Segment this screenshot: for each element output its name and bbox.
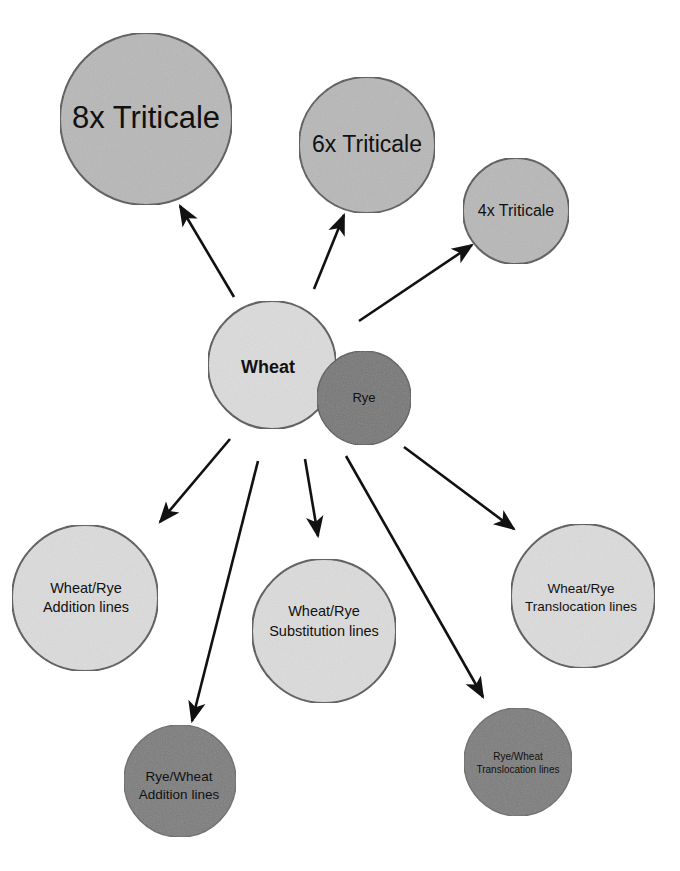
node-wr-translocation-line2: Translocation lines [525, 599, 637, 614]
arrow-to-wr-addition [160, 439, 230, 522]
node-rw-addition: Rye/Wheat Addition lines [124, 725, 236, 837]
wheat-label: Wheat [241, 357, 295, 377]
arrow-to-6x-triticale [314, 215, 344, 289]
arrow-to-4x-triticale [359, 245, 472, 321]
node-rw-translocation-line1: Rye/Wheat [493, 751, 543, 762]
node-wr-translocation-line1: Wheat/Rye [548, 581, 615, 596]
node-wr-substitution-line1: Wheat/Rye [288, 603, 360, 619]
arrow-to-8x-triticale [180, 206, 234, 297]
center-wheat-rye: Wheat Rye [208, 301, 411, 445]
node-wr-addition-line2: Addition lines [43, 599, 129, 615]
node-wr-substitution-line2: Substitution lines [269, 623, 379, 639]
node-rw-translocation: Rye/Wheat Translocation lines [464, 708, 572, 816]
node-8x-triticale-label: 8x Triticale [72, 100, 220, 135]
node-wr-translocation: Wheat/Rye Translocation lines [511, 524, 655, 668]
node-rw-addition-line2: Addition lines [139, 787, 220, 802]
rye-label: Rye [352, 390, 375, 405]
arrow-to-wr-substitution [305, 459, 318, 536]
node-rw-translocation-circle [464, 708, 572, 816]
diagram-canvas: 8x Triticale 6x Triticale 4x Triticale W… [0, 0, 680, 871]
node-wr-addition-line1: Wheat/Rye [50, 580, 122, 596]
node-wr-translocation-circle [511, 524, 655, 668]
node-6x-triticale-label: 6x Triticale [312, 131, 422, 157]
node-6x-triticale: 6x Triticale [299, 77, 435, 213]
node-rw-addition-line1: Rye/Wheat [146, 769, 213, 784]
node-4x-triticale: 4x Triticale [463, 158, 569, 264]
node-wr-substitution: Wheat/Rye Substitution lines [252, 559, 396, 703]
node-rw-translocation-line2: Translocation lines [476, 764, 559, 775]
arrow-to-rw-addition [192, 461, 258, 721]
arrow-to-wr-translocation [404, 447, 514, 529]
node-8x-triticale: 8x Triticale [60, 33, 232, 205]
node-4x-triticale-label: 4x Triticale [478, 202, 555, 219]
node-wr-addition: Wheat/Rye Addition lines [12, 525, 158, 671]
